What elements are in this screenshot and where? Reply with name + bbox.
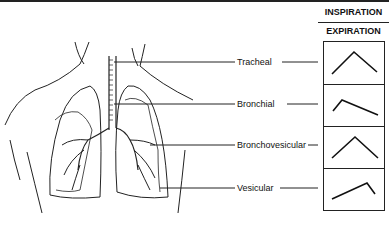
pattern-box-bronchovesicular: [323, 126, 385, 169]
pattern-box-vesicular: [323, 168, 385, 211]
bronchovesicular-pattern-icon: [324, 127, 386, 170]
tracheal-pattern-icon: [324, 42, 386, 86]
label-tracheal: Tracheal: [235, 57, 274, 68]
label-vesicular: Vesicular: [235, 183, 276, 194]
bronchial-pattern-icon: [324, 85, 386, 128]
vesicular-pattern-icon: [324, 169, 386, 212]
label-bronchial: Bronchial: [235, 99, 277, 110]
label-bronchovesicular: Bronchovesicular: [235, 140, 308, 151]
pattern-box-bronchial: [323, 84, 385, 127]
pattern-box-tracheal: [323, 41, 385, 85]
